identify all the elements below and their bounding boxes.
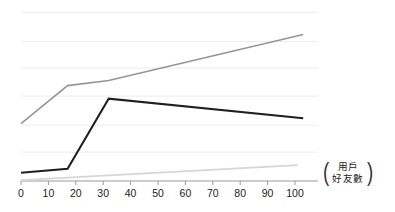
caption-line-2: 好友數: [332, 173, 364, 185]
x-tick-label-60: 60: [180, 188, 192, 199]
line-chart: 0102030405060708090100 ( 用戶 好友數 ): [0, 0, 395, 212]
x-axis-line: [21, 181, 318, 185]
x-tick-label-20: 20: [70, 188, 82, 199]
x-tick-label-70: 70: [207, 188, 219, 199]
caption-text: 用戶 好友數: [332, 161, 364, 184]
x-tick-label-90: 90: [262, 188, 274, 199]
x-axis-caption: ( 用戶 好友數 ): [322, 160, 374, 185]
x-tick-label-80: 80: [234, 188, 246, 199]
line-series-light-gray: [21, 165, 298, 180]
x-tick-label-10: 10: [43, 188, 55, 199]
caption-open-paren: (: [323, 160, 329, 185]
x-tick-label-40: 40: [125, 188, 137, 199]
caption-close-paren: ): [367, 160, 373, 185]
x-tick-label-50: 50: [152, 188, 164, 199]
caption-line-1: 用戶: [338, 161, 359, 173]
line-series-mid-gray: [21, 34, 303, 123]
data-series-group: [21, 34, 303, 180]
line-series-dark: [21, 99, 303, 173]
gridlines: [21, 12, 318, 152]
x-tick-label-30: 30: [97, 188, 109, 199]
x-tick-label-100: 100: [286, 188, 304, 199]
x-tick-label-0: 0: [18, 188, 24, 199]
